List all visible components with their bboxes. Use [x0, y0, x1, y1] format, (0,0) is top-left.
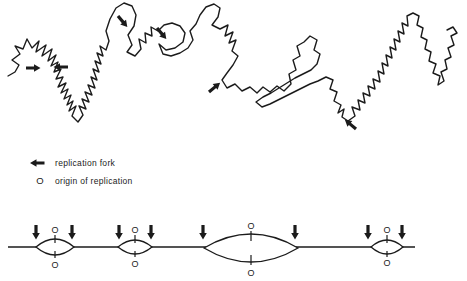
chromosome-squiggle — [8, 3, 457, 122]
replication-figure-canvas: replication fork O origin of replication… — [0, 0, 467, 281]
map-fork-arrow-b2-left — [115, 225, 123, 240]
origin-label-b2-bottom: O — [131, 259, 138, 269]
origin-label-b3-top: O — [247, 221, 254, 231]
linear-replication-map: O O O O O O O O — [8, 221, 415, 278]
map-fork-arrow-b4-right — [398, 225, 406, 240]
chromosome-fork-arrows — [26, 14, 358, 132]
replication-figure: replication fork O origin of replication… — [0, 0, 467, 281]
origin-label-b1-bottom: O — [51, 260, 58, 270]
map-fork-arrow-b4-left — [364, 225, 372, 240]
map-fork-arrow-b2-right — [147, 225, 155, 240]
replication-fork-arrow-1 — [26, 64, 41, 72]
legend-fork-arrow-icon — [30, 159, 45, 167]
legend-origin-label: origin of replication — [55, 176, 133, 186]
legend-fork-label: replication fork — [55, 158, 116, 168]
origin-label-b1-top: O — [51, 225, 58, 235]
map-fork-arrow-b1-left — [32, 225, 40, 240]
map-fork-arrow-b3-right — [291, 225, 299, 240]
origin-label-b2-top: O — [131, 225, 138, 235]
origin-label-b3-bottom: O — [247, 268, 254, 278]
origin-label-b4-bottom: O — [383, 258, 390, 268]
replication-fork-arrow-3 — [115, 14, 130, 30]
legend: replication fork O origin of replication — [30, 158, 133, 186]
legend-origin-symbol: O — [36, 175, 43, 186]
origin-label-b4-top: O — [383, 225, 390, 235]
replication-fork-arrow-5 — [207, 80, 223, 95]
map-fork-arrow-b1-right — [68, 225, 76, 240]
map-fork-arrow-b3-left — [199, 225, 207, 240]
map-fork-arrows — [32, 225, 406, 240]
